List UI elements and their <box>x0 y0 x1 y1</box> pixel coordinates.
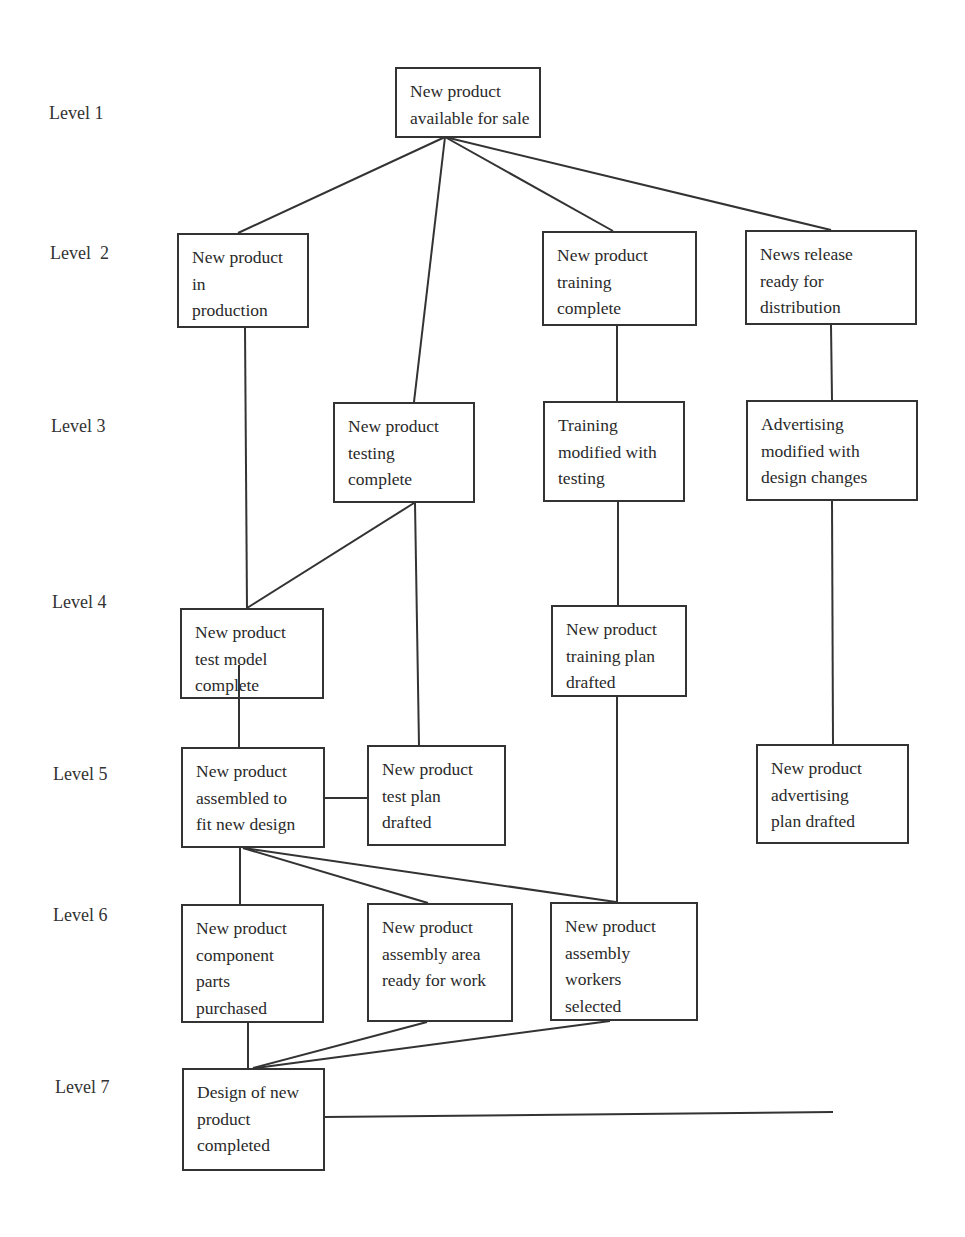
node-text-line: purchased <box>196 995 322 1022</box>
node-test-model: New producttest modelcomplete <box>180 608 324 699</box>
node-text-line: testing <box>558 465 683 492</box>
node-assembled: New productassembled tofit new design <box>181 747 325 848</box>
node-text-line: complete <box>348 466 473 493</box>
node-text-line: New product <box>410 78 539 105</box>
edge-testing-complete-to-test-model <box>247 503 414 608</box>
node-text-line: fit new design <box>196 811 323 838</box>
node-text-line: New product <box>566 616 685 643</box>
edge-available-to-news-release <box>445 137 831 230</box>
connector-lines <box>0 0 965 1237</box>
edge-assembly-area-to-design-completed <box>253 1022 427 1068</box>
node-text-line: assembled to <box>196 785 323 812</box>
node-text-line: New product <box>348 413 473 440</box>
edge-available-to-in-production <box>238 137 445 233</box>
node-text-line: in <box>192 271 307 298</box>
edge-assembled-to-assembly-workers <box>243 848 616 902</box>
edge-design-completed-to-open-end <box>325 1112 833 1117</box>
level-label-4: Level 4 <box>52 592 106 613</box>
node-assembly-area: New productassembly areaready for work <box>367 903 513 1022</box>
level-label-7: Level 7 <box>55 1077 109 1098</box>
node-text-line: New product <box>196 915 322 942</box>
node-news-release: News releaseready fordistribution <box>745 230 917 325</box>
node-text-line: training plan <box>566 643 685 670</box>
node-text-line: Design of new <box>197 1079 323 1106</box>
node-text-line: New product <box>382 756 504 783</box>
node-text-line: component <box>196 942 322 969</box>
node-text-line: completed <box>197 1132 323 1159</box>
node-text-line: Advertising <box>761 411 916 438</box>
node-text-line: drafted <box>566 669 685 696</box>
level-label-3: Level 3 <box>51 416 105 437</box>
node-text-line: parts <box>196 968 322 995</box>
level-label-5: Level 5 <box>53 764 107 785</box>
level-label-6: Level 6 <box>53 905 107 926</box>
edge-news-release-to-advertising-modified <box>831 325 832 400</box>
node-text-line: distribution <box>760 294 915 321</box>
node-text-line: modified with <box>558 439 683 466</box>
edge-available-to-testing-complete <box>414 137 445 402</box>
node-text-line: complete <box>195 672 322 699</box>
node-design-completed: Design of newproductcompleted <box>182 1068 325 1171</box>
node-advertising-plan: New productadvertisingplan drafted <box>756 744 909 844</box>
node-training-modified: Trainingmodified withtesting <box>543 401 685 502</box>
node-text-line: drafted <box>382 809 504 836</box>
node-text-line: production <box>192 297 307 324</box>
node-text-line: New product <box>771 755 907 782</box>
node-text-line: design changes <box>761 464 916 491</box>
node-component-parts: New productcomponentpartspurchased <box>181 904 324 1023</box>
node-assembly-workers: New productassemblyworkersselected <box>550 902 698 1021</box>
level-label-2: Level 2 <box>50 243 109 264</box>
level-label-1: Level 1 <box>49 103 103 124</box>
node-in-production: New productinproduction <box>177 233 309 328</box>
node-text-line: product <box>197 1106 323 1133</box>
edge-available-to-training-complete <box>445 137 613 231</box>
node-text-line: New product <box>382 914 511 941</box>
node-text-line: selected <box>565 993 696 1020</box>
node-text-line: test plan <box>382 783 504 810</box>
node-available: New productavailable for sale <box>395 67 541 138</box>
node-text-line: ready for work <box>382 967 511 994</box>
node-text-line: advertising <box>771 782 907 809</box>
node-testing-complete: New producttestingcomplete <box>333 402 475 503</box>
edge-assembled-to-assembly-area <box>243 848 428 903</box>
node-text-line: New product <box>196 758 323 785</box>
node-text-line: testing <box>348 440 473 467</box>
node-text-line: complete <box>557 295 695 322</box>
edge-advertising-modified-to-advertising-plan <box>832 501 833 744</box>
node-text-line: Training <box>558 412 683 439</box>
node-text-line: News release <box>760 241 915 268</box>
node-text-line: ready for <box>760 268 915 295</box>
node-text-line: New product <box>192 244 307 271</box>
node-text-line: training <box>557 269 695 296</box>
node-text-line: available for sale <box>410 105 539 132</box>
node-text-line: New product <box>195 619 322 646</box>
node-text-line: assembly <box>565 940 696 967</box>
node-text-line: New product <box>565 913 696 940</box>
node-training-complete: New producttrainingcomplete <box>542 231 697 326</box>
edge-testing-complete-to-test-plan <box>415 503 419 745</box>
node-test-plan: New producttest plandrafted <box>367 745 506 846</box>
node-text-line: plan drafted <box>771 808 907 835</box>
node-text-line: assembly area <box>382 941 511 968</box>
edge-in-production-to-test-model <box>245 328 247 608</box>
node-text-line: modified with <box>761 438 916 465</box>
edge-assembly-workers-to-design-completed <box>256 1021 610 1068</box>
node-text-line: New product <box>557 242 695 269</box>
node-text-line: test model <box>195 646 322 673</box>
node-text-line: workers <box>565 966 696 993</box>
node-advertising-modified: Advertisingmodified withdesign changes <box>746 400 918 501</box>
node-training-plan: New producttraining plandrafted <box>551 605 687 697</box>
